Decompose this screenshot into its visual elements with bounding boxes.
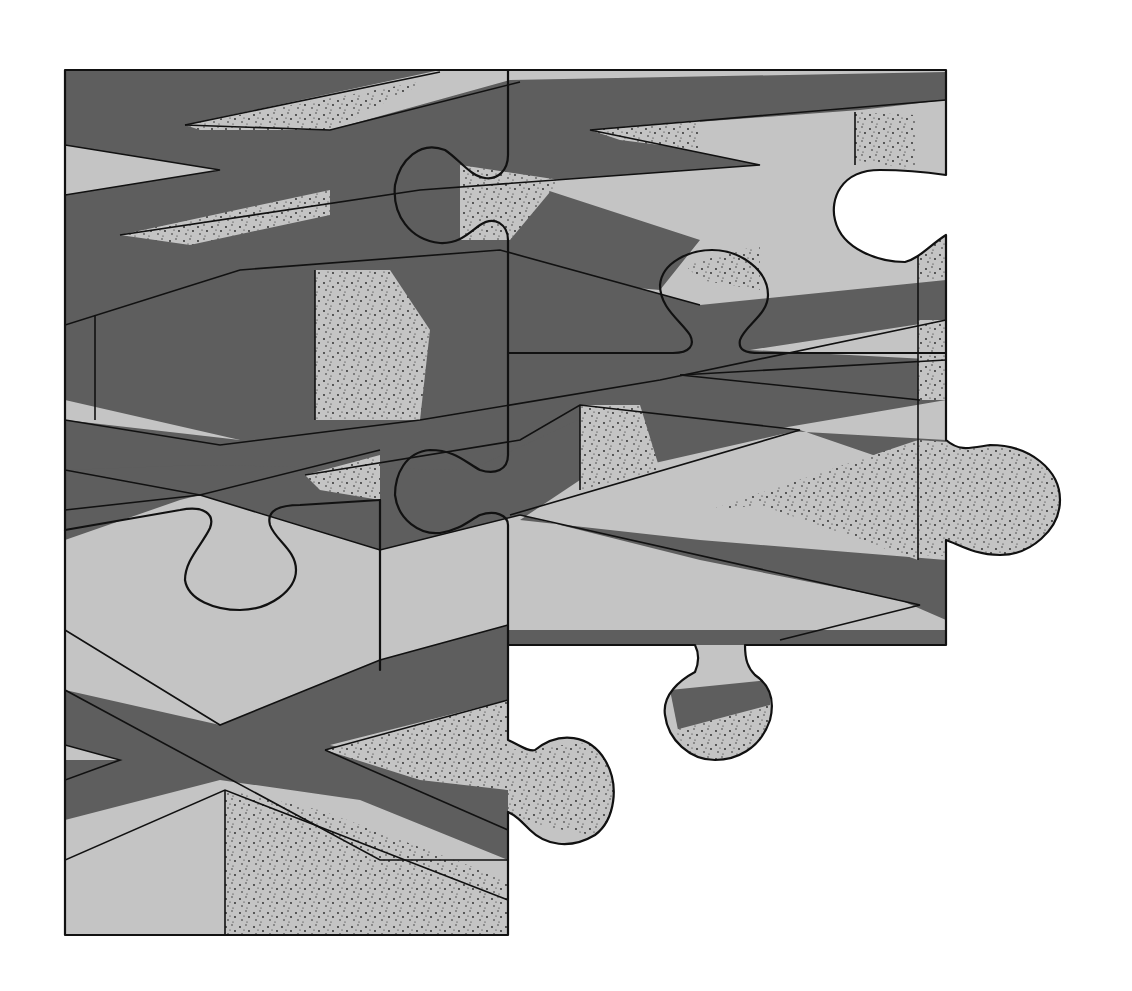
puzzle-illustration xyxy=(0,0,1132,991)
puzzle-pattern xyxy=(0,0,1132,991)
